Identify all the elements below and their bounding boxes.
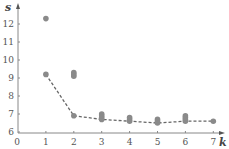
x-tick-label: 4 [127, 137, 133, 147]
y-tick-label: 10 [3, 55, 15, 65]
x-tick-label: 5 [155, 137, 161, 147]
x-axis-arrow-icon [219, 131, 225, 135]
y-tick-label: 8 [8, 91, 14, 101]
data-point [99, 117, 105, 123]
data-point [211, 118, 217, 124]
y-axis-arrow-icon [16, 3, 20, 9]
x-tick-label: 3 [99, 137, 105, 147]
x-tick-label: 0 [14, 137, 20, 147]
x-tick-label: 1 [43, 137, 49, 147]
data-point [183, 118, 189, 124]
y-tick-label: 12 [3, 19, 14, 29]
data-point [127, 118, 133, 124]
data-point [43, 72, 49, 78]
data-point [155, 120, 161, 126]
y-tick-label: 9 [8, 73, 14, 83]
chart: s k 6789101112 01234567 [0, 0, 229, 149]
y-ticks: 6789101112 [3, 19, 20, 137]
x-tick-label: 6 [183, 137, 189, 147]
data-point [71, 113, 77, 119]
y-tick-label: 7 [8, 109, 14, 119]
x-tick-label: 2 [71, 137, 77, 147]
data-point [71, 73, 77, 79]
y-axis-label: s [5, 1, 11, 14]
y-tick-label: 11 [3, 37, 14, 47]
y-tick-label: 6 [8, 127, 14, 137]
x-axis-label: k [219, 136, 227, 149]
x-tick-label: 7 [210, 137, 216, 147]
data-point [43, 16, 49, 22]
